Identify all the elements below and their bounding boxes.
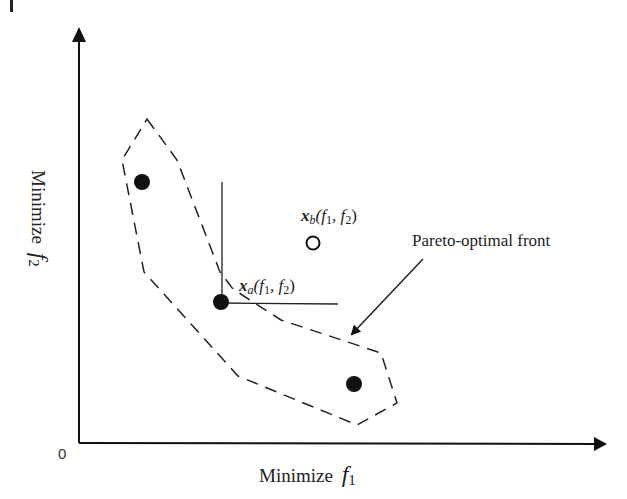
point-label-xa: xa(f1, f2)	[238, 276, 295, 297]
corner-mark	[10, 0, 13, 12]
x-axis-label: Minimize f1	[259, 461, 356, 488]
solution-point-xb	[307, 237, 320, 250]
y-axis	[72, 27, 86, 443]
dominance-line-horizontal	[221, 303, 338, 304]
pareto-front-arrow	[352, 259, 423, 334]
point-label-xb: xb(f1, f2)	[300, 206, 357, 227]
y-axis-label: Minimize f2	[26, 170, 53, 267]
y-axis-arrow-icon	[72, 27, 86, 42]
pareto-diagram: 0 Minimize f1 Minimize f2 xb(f1, f2) xa(…	[0, 0, 627, 499]
x-axis-arrow-icon	[594, 437, 607, 451]
x-axis	[79, 437, 607, 451]
solution-point-1	[134, 174, 150, 190]
solution-point-xa	[213, 294, 229, 310]
solution-point-3	[346, 376, 362, 392]
origin-label: 0	[58, 445, 66, 462]
pareto-front-label: Pareto-optimal front	[412, 231, 551, 250]
